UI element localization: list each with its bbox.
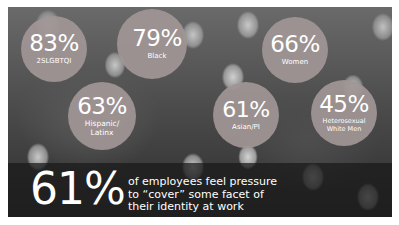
stat-circle-hispanic-latinx: 63% Hispanic/ Latinx <box>68 82 136 150</box>
stat-percent: 61% <box>222 99 269 121</box>
caption-line-1: of employees feel pressure <box>128 176 348 189</box>
stat-label-line2: White Men <box>327 126 362 133</box>
stat-label-line2: Latinx <box>91 129 114 138</box>
stat-label: Women <box>282 58 308 66</box>
stat-circle-heterosexual-white-men: 45% Heterosexual White Men <box>311 80 377 146</box>
stat-circle-women: 66% Women <box>262 17 328 83</box>
stat-circle-2slgbtqi: 83% 2SLGBTQI <box>21 16 87 82</box>
stat-circle-black: 79% Black <box>117 9 187 79</box>
caption-line-3: their identity at work <box>128 201 348 214</box>
stat-percent: 79% <box>132 27 182 50</box>
stat-label: Asian/PI <box>232 123 260 131</box>
stat-label: Black <box>148 52 167 60</box>
stat-label: 2SLGBTQI <box>37 57 72 65</box>
stat-percent: 45% <box>319 93 369 116</box>
stat-percent: 66% <box>270 33 320 56</box>
stat-percent: 63% <box>77 95 127 118</box>
headline-percent: 61% <box>30 167 125 211</box>
stat-circle-asian-pi: 61% Asian/PI <box>213 82 279 148</box>
headline-caption: of employees feel pressure to “cover” so… <box>128 176 348 214</box>
stat-percent: 83% <box>29 32 79 55</box>
